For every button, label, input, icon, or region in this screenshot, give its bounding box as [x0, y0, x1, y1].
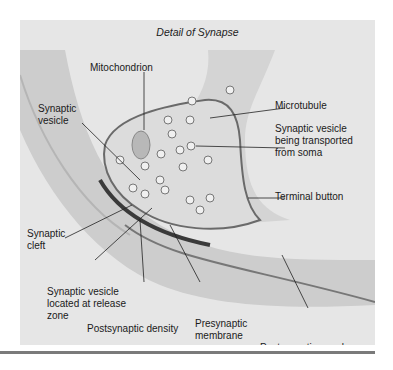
label-postsynaptic-membrane: Postsynaptic membrane: [260, 342, 367, 345]
label-release-zone-line3: zone: [47, 310, 69, 322]
label-microtubule: Microtubule: [275, 100, 327, 112]
label-synaptic-cleft-line1: Synaptic: [27, 228, 65, 240]
label-release-zone-line2: located at release: [47, 298, 126, 310]
label-synaptic-vesicle-line2: vesicle: [38, 115, 69, 127]
label-presynaptic-line1: Presynaptic: [195, 318, 247, 330]
label-mitochondrion: Mitochondrion: [90, 62, 153, 74]
label-release-zone-line1: Synaptic vesicle: [47, 286, 119, 298]
label-synaptic-cleft-line2: cleft: [27, 240, 45, 252]
label-synaptic-vesicle-line1: Synaptic: [38, 103, 76, 115]
label-postsynaptic-density: Postsynaptic density: [87, 323, 178, 335]
synapse-figure: Detail of Synapse Mitochondrion Microtub…: [20, 20, 375, 345]
label-transported-line3: from soma: [275, 147, 322, 159]
bottom-rule: [0, 351, 375, 354]
label-presynaptic-line2: membrane: [195, 330, 243, 342]
label-terminal-button: Terminal button: [275, 191, 343, 203]
figure-title: Detail of Synapse: [20, 26, 375, 38]
label-transported-line1: Synaptic vesicle: [275, 123, 347, 135]
label-transported-line2: being transported: [275, 135, 353, 147]
mitochondrion: [132, 131, 150, 159]
